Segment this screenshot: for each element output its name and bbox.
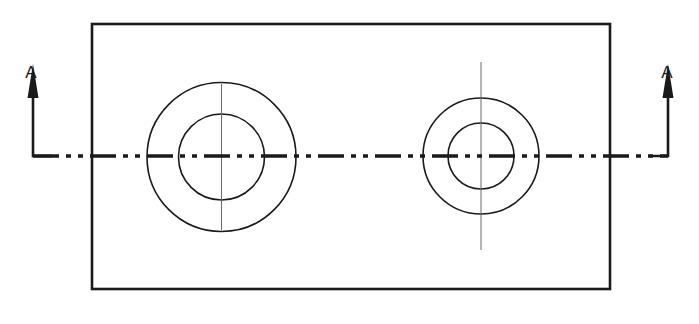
section-label-right-a: A [661,63,673,82]
section-arrow-left-stem [33,88,52,156]
section-label-left-a: A [25,63,37,82]
engineering-drawing-canvas: A A [0,0,699,324]
section-arrow-left-group: A [25,63,52,156]
section-arrow-right-stem [649,88,668,156]
drawing-svg: A A [0,0,699,324]
section-arrow-right-group: A [649,63,674,156]
